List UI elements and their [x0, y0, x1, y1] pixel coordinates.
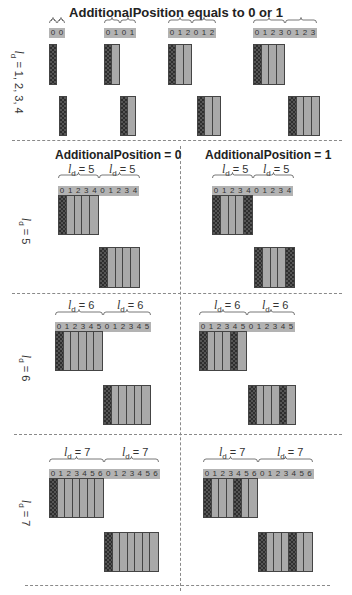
brace: [258, 456, 313, 463]
symbol-index: 2: [184, 28, 192, 38]
brace: [212, 172, 253, 179]
slot-block-lower: [197, 96, 221, 136]
data-symbol: [127, 386, 135, 424]
symbol-index: 3: [123, 186, 131, 196]
symbol-index: 0: [104, 469, 112, 479]
slot-block-upper: [199, 331, 247, 371]
data-symbol: [94, 332, 102, 370]
dmrs-symbol: [169, 45, 176, 84]
slot-block-upper: [253, 44, 285, 85]
symbol-index: 2: [269, 186, 277, 196]
symbol-index: 3: [309, 28, 317, 38]
data-symbol: [267, 533, 275, 571]
dmrs-symbol: [104, 386, 112, 424]
symbol-index: 1: [111, 322, 119, 332]
row-label-ld-6: ld = 6: [17, 355, 33, 381]
slot-block-upper: [55, 331, 103, 371]
dmrs-symbol: [121, 97, 128, 135]
dmrs-symbol: [244, 196, 252, 234]
slot-block-upper: [49, 44, 57, 85]
brace: [199, 309, 247, 316]
data-symbol: [82, 196, 90, 234]
symbol-index: 0: [104, 28, 112, 38]
dmrs-symbol: [280, 386, 288, 424]
data-symbol: [67, 196, 75, 234]
slot-block-upper: [203, 478, 258, 518]
data-symbol: [274, 533, 282, 571]
data-symbol: [215, 332, 223, 370]
slot-block-lower: [104, 532, 159, 572]
symbol-index: 0: [168, 28, 176, 38]
data-symbol: [304, 533, 312, 571]
data-symbol: [262, 45, 270, 84]
symbol-index: 1: [261, 186, 269, 196]
data-symbol: [282, 533, 290, 571]
data-symbol: [221, 196, 229, 234]
subtitle-ap0: AdditionalPosition = 0: [55, 148, 175, 162]
dmrs-symbol: [50, 45, 56, 84]
brace: [104, 456, 159, 463]
symbol-index: 0: [103, 322, 111, 332]
data-symbol: [128, 533, 136, 571]
data-symbol: [304, 97, 312, 135]
symbol-index: 3: [277, 28, 285, 38]
data-symbol: [75, 196, 83, 234]
symbol-index: 5: [298, 469, 306, 479]
data-symbol: [87, 332, 95, 370]
symbol-index: 1: [200, 28, 208, 38]
symbol-index-bar: 0101: [104, 28, 136, 38]
divider-vertical: [180, 146, 181, 591]
data-symbol: [95, 479, 103, 517]
dmrs-symbol: [249, 386, 257, 424]
dmrs-symbol: [100, 248, 108, 287]
data-symbol: [123, 248, 131, 287]
data-symbol: [150, 533, 158, 571]
brace: [99, 172, 140, 179]
brace: [55, 309, 103, 316]
slot-block-upper: [58, 195, 99, 235]
slot-block-upper: [212, 195, 253, 235]
symbol-index: 6: [152, 469, 160, 479]
symbol-index: 6: [306, 469, 314, 479]
data-symbol: [269, 45, 277, 84]
slot-block-lower: [59, 96, 67, 136]
data-symbol: [142, 386, 150, 424]
symbol-index: 1: [107, 186, 115, 196]
slot-block-upper: [104, 44, 120, 85]
symbol-index: 0: [49, 28, 57, 38]
data-symbol: [271, 248, 279, 287]
dmrs-symbol: [234, 479, 242, 517]
symbol-index: 5: [144, 469, 152, 479]
symbol-index: 5: [143, 322, 151, 332]
dmrs-symbol: [289, 97, 297, 135]
symbol-index: 3: [271, 322, 279, 332]
symbol-index: 3: [277, 186, 285, 196]
dmrs-symbol: [56, 332, 64, 370]
brace: [203, 456, 258, 463]
row-label-ld-7: ld = 7: [17, 500, 33, 526]
brace: [285, 17, 317, 24]
data-symbol: [297, 97, 305, 135]
symbol-index: 1: [261, 28, 269, 38]
slot-block-lower: [258, 532, 313, 572]
data-symbol: [238, 332, 246, 370]
data-symbol: [112, 45, 119, 84]
symbol-index: 2: [120, 469, 128, 479]
data-symbol: [287, 386, 295, 424]
symbol-index: 0: [285, 28, 293, 38]
slot-block-lower: [99, 247, 140, 288]
brace: [253, 17, 285, 24]
brace: [104, 17, 120, 24]
dmrs-symbol: [254, 45, 262, 84]
data-symbol: [88, 479, 96, 517]
data-symbol: [278, 248, 286, 287]
row-label-ld-5: ld = 5: [17, 218, 33, 244]
symbol-index-bar: 01230123: [253, 28, 317, 38]
brace: [58, 172, 99, 179]
data-symbol: [312, 97, 319, 135]
symbol-index: 2: [274, 469, 282, 479]
dmrs-symbol: [59, 196, 67, 234]
symbol-index: 0: [98, 186, 106, 196]
symbol-index: 0: [253, 28, 261, 38]
dmrs-symbol: [50, 479, 58, 517]
